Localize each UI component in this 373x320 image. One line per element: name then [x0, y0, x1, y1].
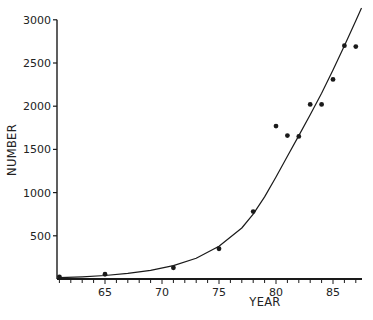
- y-tick-label: 2500: [23, 57, 51, 70]
- y-tick-label: 3000: [23, 14, 51, 27]
- data-point: [296, 134, 301, 139]
- y-tick-label: 1500: [23, 143, 51, 156]
- data-point: [103, 272, 108, 277]
- x-axis-title: YEAR: [248, 295, 280, 309]
- data-point: [308, 102, 313, 107]
- data-point: [285, 133, 290, 138]
- data-points: [57, 43, 358, 279]
- data-point: [171, 265, 176, 270]
- y-tick-label: 1000: [23, 187, 51, 200]
- data-point: [319, 102, 324, 107]
- y-tick-label: 2000: [23, 100, 51, 113]
- x-tick-label: 75: [212, 286, 226, 299]
- axes: 500100015002000250030006570758085: [23, 14, 362, 299]
- x-tick-label: 65: [98, 286, 112, 299]
- data-point: [217, 246, 222, 251]
- x-tick-label: 85: [326, 286, 340, 299]
- data-point: [331, 77, 336, 82]
- data-point: [353, 44, 358, 49]
- data-point: [251, 209, 256, 214]
- data-point: [274, 124, 279, 129]
- data-point: [57, 274, 62, 279]
- y-axis-title: NUMBER: [5, 124, 19, 176]
- x-tick-label: 70: [155, 286, 169, 299]
- chart: 500100015002000250030006570758085 YEAR N…: [0, 0, 373, 320]
- fitted-curve: [59, 8, 361, 278]
- fitted-curve-path: [59, 8, 361, 278]
- y-tick-label: 500: [30, 230, 51, 243]
- data-point: [342, 43, 347, 48]
